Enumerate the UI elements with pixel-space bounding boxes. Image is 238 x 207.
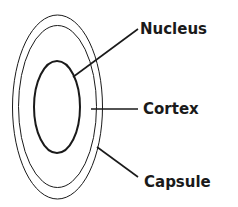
cortex-label: Cortex	[143, 100, 199, 118]
capsule-leader-line	[97, 147, 138, 177]
capsule-label: Capsule	[144, 173, 211, 191]
diagram-canvas: Nucleus Cortex Capsule	[0, 0, 238, 207]
capsule-outer-outline	[13, 15, 103, 199]
nucleus-leader-line	[73, 29, 138, 77]
nucleus-outline	[34, 61, 80, 153]
nucleus-label: Nucleus	[140, 20, 207, 38]
capsule-inner-outline	[19, 26, 97, 188]
lens-diagram: Nucleus Cortex Capsule	[0, 0, 238, 207]
